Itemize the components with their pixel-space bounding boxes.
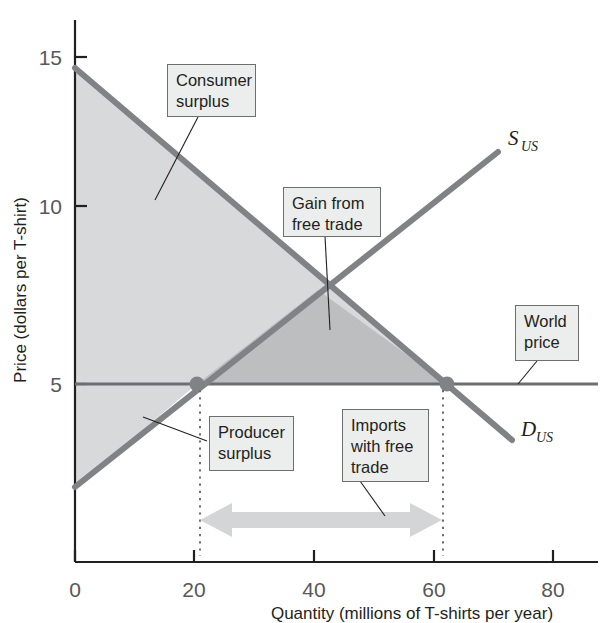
x-tick-label-0: 0 — [69, 578, 81, 601]
callout-consumer-surplus: Consumer surplus — [167, 64, 256, 117]
imports-double-arrow — [200, 503, 442, 537]
x-tick-label-40: 40 — [302, 578, 325, 601]
y-tick-label-10: 10 — [39, 195, 62, 218]
x-axis-title: Quantity (millions of T-shirts per year) — [271, 604, 553, 623]
callout-world-price: World price — [515, 305, 579, 361]
demand-world-price-point — [440, 377, 455, 392]
demand-curve-label-subscript: US — [536, 430, 553, 445]
callout-imports-with-free-trade: Imports with free trade — [342, 409, 429, 482]
y-tick-label-5: 5 — [50, 373, 62, 396]
supply-world-price-point — [190, 377, 205, 392]
x-tick-label-60: 60 — [422, 578, 445, 601]
economics-chart: 15 10 5 0 20 40 60 80 Price (dollars per… — [0, 0, 612, 623]
y-axis-title: Price (dollars per T-shirt) — [11, 197, 30, 383]
demand-curve-label: D — [520, 417, 536, 441]
leader-line-world-price — [518, 361, 537, 384]
callout-gain-from-free-trade: Gain from free trade — [283, 187, 381, 237]
supply-curve-label: S — [508, 126, 519, 150]
callout-producer-surplus: Producer surplus — [209, 416, 294, 471]
x-tick-label-80: 80 — [541, 578, 564, 601]
x-tick-label-20: 20 — [182, 578, 205, 601]
supply-curve-label-subscript: US — [521, 139, 538, 154]
leader-line-imports — [360, 481, 385, 516]
y-tick-label-15: 15 — [39, 46, 62, 69]
